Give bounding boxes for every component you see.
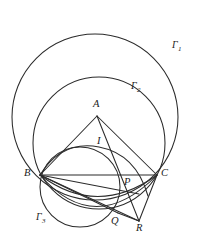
label-gamma1-letter: Γ — [172, 39, 178, 50]
label-point-r: R — [136, 223, 142, 234]
label-point-a: A — [93, 99, 99, 110]
label-gamma1-subscript: 1 — [178, 45, 182, 53]
segment-bq — [40, 175, 118, 213]
geometry-figure: Γ1 Γ2 Γ3 A B C I P Q R — [0, 0, 201, 245]
label-point-b: B — [24, 168, 30, 179]
label-gamma2-letter: Γ — [131, 80, 137, 91]
label-gamma3-subscript: 3 — [42, 217, 46, 225]
label-point-q: Q — [111, 216, 119, 227]
label-gamma1: Γ1 — [172, 40, 182, 53]
label-gamma2: Γ2 — [131, 81, 141, 94]
label-point-c: C — [161, 168, 168, 179]
label-gamma2-subscript: 2 — [137, 86, 141, 94]
label-point-i: I — [97, 136, 101, 147]
segment-ac — [97, 116, 157, 175]
arc-bic — [40, 146, 148, 196]
segment-cr — [139, 175, 157, 221]
geometry-canvas — [0, 0, 201, 245]
label-gamma3-letter: Γ — [36, 211, 42, 222]
segment-ar — [97, 116, 139, 221]
label-point-p: P — [124, 177, 130, 188]
label-gamma3: Γ3 — [36, 212, 46, 225]
